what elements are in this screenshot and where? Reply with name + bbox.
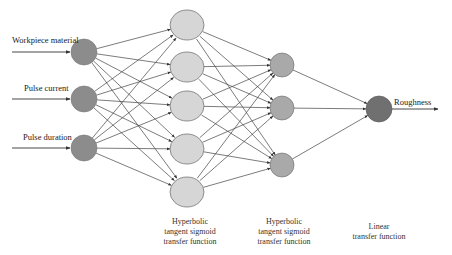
- edge-in0-h14: [92, 62, 177, 178]
- edge-in0-h13: [93, 61, 174, 137]
- edge-in0-h11: [97, 54, 170, 65]
- hidden1-caption-line2: tangent sigmoid: [164, 227, 215, 236]
- input-label-workpiece-material: Workpiece material: [12, 35, 79, 45]
- hidden1-caption-line1: Hyperbolic: [172, 217, 208, 226]
- hidden1-node-4: [170, 177, 204, 207]
- edge-h12-h22: [201, 115, 271, 159]
- edge-in2-h13: [97, 148, 170, 149]
- edge-h13-h21: [203, 113, 271, 143]
- hidden2-caption-line3: transfer function: [257, 237, 310, 246]
- edge-h12-h21: [204, 106, 270, 107]
- output-node: [366, 96, 392, 122]
- edge-h12-h20: [203, 70, 271, 100]
- hidden1-node-3: [170, 134, 204, 164]
- edge-h10-h20: [203, 32, 271, 61]
- neural-network-diagram: Workpiece material Pulse current Pulse d…: [0, 0, 452, 255]
- edge-h14-h22: [203, 168, 270, 187]
- input-label-pulse-current: Pulse current: [24, 83, 69, 93]
- input-node-1: [71, 86, 97, 112]
- edge-h13-h22: [204, 152, 270, 163]
- edge-in2-h14: [96, 153, 171, 185]
- hidden1-caption-line3: transfer function: [163, 237, 216, 246]
- edge-in2-h11: [94, 78, 173, 140]
- output-caption-line2: transfer function: [352, 232, 405, 241]
- input-node-2: [71, 135, 97, 161]
- edge-h14-h20: [197, 75, 275, 179]
- hidden1-node-1: [170, 52, 204, 82]
- edge-in0-h10: [97, 29, 171, 48]
- hidden1-node-2: [170, 91, 204, 121]
- edge-h20-out: [293, 70, 367, 104]
- edge-h11-h20: [204, 65, 270, 66]
- output-label-roughness: Roughness: [394, 97, 431, 107]
- hidden2-node-2: [270, 153, 294, 177]
- hidden2-caption-line1: Hyperbolic: [266, 217, 302, 226]
- edge-in1-h13: [96, 105, 172, 142]
- input-label-pulse-duration: Pulse duration: [23, 132, 73, 142]
- hidden1-node-0: [170, 10, 204, 40]
- edge-h21-out: [294, 108, 366, 109]
- edge-in2-h12: [96, 112, 171, 143]
- output-caption-line1: Linear: [369, 222, 390, 231]
- edge-h22-out: [292, 115, 367, 159]
- hidden2-node-0: [270, 53, 294, 77]
- hidden2-caption-line2: tangent sigmoid: [258, 227, 309, 236]
- edge-in1-h12: [97, 100, 170, 105]
- hidden2-node-1: [270, 96, 294, 120]
